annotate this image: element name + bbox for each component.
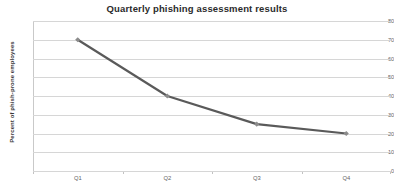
series-line-chart bbox=[33, 21, 391, 171]
data-point-marker bbox=[344, 131, 349, 136]
data-point-marker bbox=[254, 122, 259, 127]
series-markers bbox=[75, 37, 349, 136]
x-axis-tick-label: Q4 bbox=[326, 175, 366, 181]
plot-area bbox=[33, 21, 391, 171]
chart-title: Quarterly phishing assessment results bbox=[0, 3, 394, 14]
x-axis-tick-label: Q1 bbox=[58, 175, 98, 181]
y-axis-title: Percent of phish-prone employees bbox=[9, 22, 15, 162]
x-axis-tick-label: Q2 bbox=[147, 175, 187, 181]
x-axis-tick-label: Q3 bbox=[237, 175, 277, 181]
gridline bbox=[33, 171, 391, 172]
series-line bbox=[78, 40, 347, 134]
chart-container: Quarterly phishing assessment results Pe… bbox=[0, 0, 394, 191]
